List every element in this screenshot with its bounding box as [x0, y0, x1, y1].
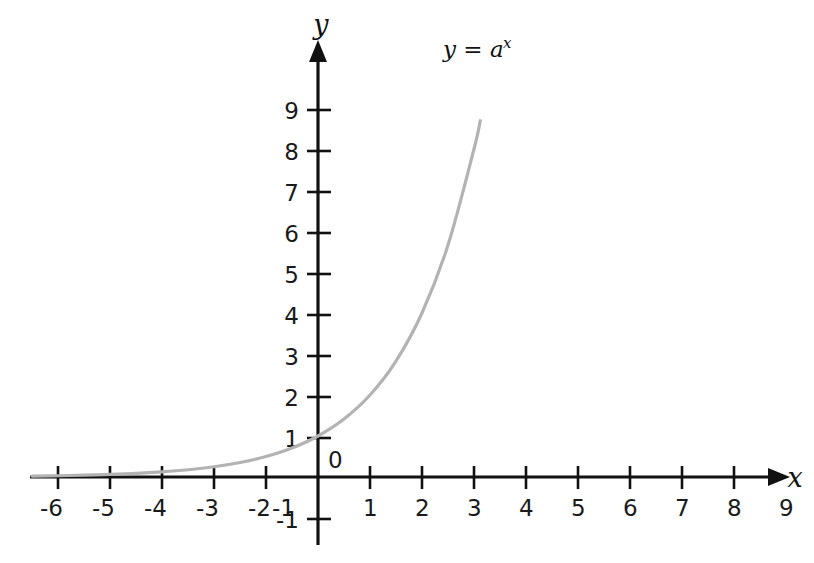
x-tick-label: 6	[623, 495, 638, 521]
x-axis: x	[30, 462, 803, 493]
exponential-curve	[32, 121, 480, 476]
x-tick-label: -4	[144, 495, 167, 521]
x-tick-label: 5	[571, 495, 586, 521]
y-tick-label: 7	[284, 180, 299, 206]
chart-canvas: x y -6 -5 -4 -3	[0, 0, 814, 563]
x-tick-label: 3	[467, 495, 482, 521]
y-axis-label: y	[312, 9, 329, 40]
y-tick-label: 6	[284, 221, 299, 247]
curve-label-base: y = a	[442, 36, 504, 62]
x-tick-label: -3	[196, 495, 219, 521]
x-tick-label: -2	[248, 495, 271, 521]
y-tick-labels: -1 1 2 3 4 5 6 7 8 9	[276, 98, 299, 533]
x-tick-label: 4	[519, 495, 534, 521]
x-tick-label: -5	[92, 495, 115, 521]
x-tick-label: 9	[779, 495, 794, 521]
x-tick-label: 8	[727, 495, 742, 521]
chart-figure: x y -6 -5 -4 -3	[0, 0, 814, 563]
curve-label-exponent: x	[503, 34, 512, 52]
arrow-up-icon	[309, 40, 327, 62]
curve-annotation: y = a x	[442, 34, 512, 62]
y-tick-label: 8	[284, 139, 299, 165]
x-tick-label: 2	[415, 495, 430, 521]
x-tick-label: -6	[40, 495, 63, 521]
x-tick-label: 1	[363, 495, 378, 521]
y-axis: y	[309, 9, 329, 545]
x-axis-label: x	[787, 462, 802, 493]
x-tick-label: 7	[675, 495, 690, 521]
y-tick-label: 2	[284, 385, 299, 411]
x-tick-labels: -6 -5 -4 -3 -2 -1 1 2 3 4 5 6 7 8 9	[40, 495, 794, 521]
y-tick-label: 3	[284, 344, 299, 370]
y-tick-label: 9	[284, 98, 299, 124]
origin-label: 0	[328, 447, 343, 473]
y-tick-label: -1	[276, 507, 299, 533]
y-tick-label: 5	[284, 262, 299, 288]
y-tick-label: 4	[284, 303, 299, 329]
